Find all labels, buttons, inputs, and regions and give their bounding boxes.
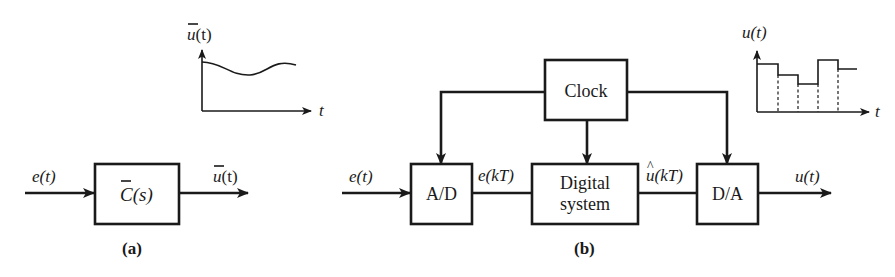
caption-a: (a)	[122, 239, 142, 258]
panel-a: u(t) t e(t) C(s) u(t) (a)	[25, 24, 325, 258]
graph-a-y-label: u(t)	[187, 25, 212, 44]
output-label-a: u(t)	[213, 167, 238, 186]
graph-b-y-label: u(t)	[742, 23, 767, 42]
panel-b: e(t) A/D e(kT) Digital system Clock u(kT…	[342, 23, 881, 258]
sampled-label: e(kT)	[478, 166, 514, 185]
diagram-canvas: u(t) t e(t) C(s) u(t) (a) e(t) A/D e(kT)…	[0, 0, 895, 277]
input-label-a: e(t)	[32, 167, 56, 186]
output-label-b: u(t)	[795, 167, 820, 186]
caption-b: (b)	[574, 239, 595, 258]
ad-label: A/D	[426, 184, 457, 204]
clock-to-ad-arrow	[441, 92, 545, 164]
continuous-curve	[202, 62, 296, 75]
graph-a-x-label: t	[319, 101, 325, 120]
input-label-b: e(t)	[349, 167, 373, 186]
clock-label: Clock	[565, 81, 608, 101]
controller-label: C(s)	[120, 184, 153, 206]
digital-label-line2: system	[560, 194, 610, 214]
continuous-signal-graph: u(t) t	[187, 24, 325, 120]
sampled-hold-signal-graph: u(t) t	[742, 23, 881, 121]
digital-label-line1: Digital	[560, 173, 610, 193]
staircase-signal	[757, 60, 857, 84]
hat-accent: ^	[647, 159, 654, 174]
graph-b-x-label: t	[875, 102, 881, 121]
da-label: D/A	[712, 184, 743, 204]
clock-to-da-arrow	[627, 92, 727, 164]
